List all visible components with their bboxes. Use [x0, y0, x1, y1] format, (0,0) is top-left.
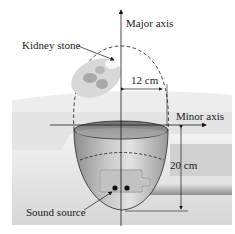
kidney-stone-leader — [78, 46, 114, 60]
sound-source-focus — [112, 185, 117, 190]
lithotripter-diagram: Major axis Kidney stone 12 cm Minor axis… — [0, 0, 235, 234]
depth-label: 20 cm — [170, 160, 197, 171]
kidney-stone-label: Kidney stone — [22, 40, 80, 51]
major-axis-label: Major axis — [126, 18, 173, 29]
body-surface-upper — [12, 91, 232, 112]
sound-source-focus-2 — [124, 185, 129, 190]
minor-axis-label: Minor axis — [176, 111, 224, 122]
sound-source-label: Sound source — [26, 207, 86, 218]
sound-source-pipe — [148, 183, 232, 195]
semi-minor-label: 12 cm — [131, 75, 158, 86]
